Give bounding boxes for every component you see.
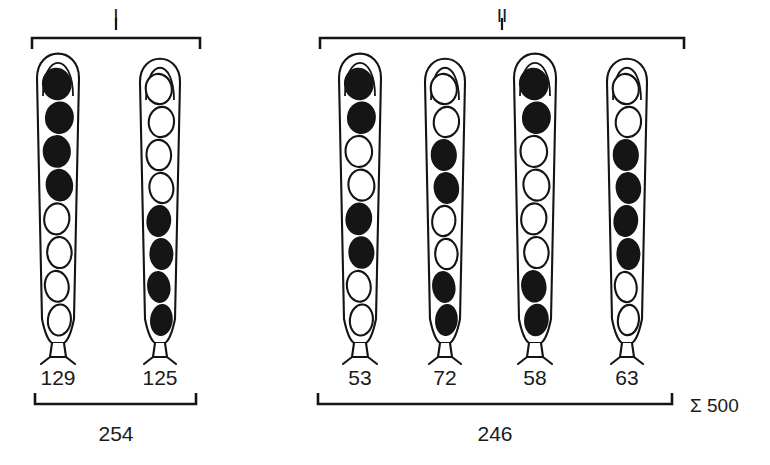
spore-dark xyxy=(43,135,71,167)
ascus-stalk xyxy=(352,343,368,357)
ascus-count-label: 63 xyxy=(615,366,638,389)
group-total-label: 254 xyxy=(98,422,133,445)
ascus-5 xyxy=(514,54,556,364)
spore-light xyxy=(345,135,373,167)
ascus-count-label: 129 xyxy=(40,366,75,389)
ascus-count-label: 125 xyxy=(142,366,177,389)
ascus-stalk xyxy=(153,343,167,357)
ascus-stalk xyxy=(620,343,634,357)
ascus-foot xyxy=(429,357,461,364)
ascus-stalk xyxy=(50,343,66,357)
spore-light xyxy=(523,236,549,268)
group-roman-label: I xyxy=(113,5,118,26)
ascus-2 xyxy=(140,59,180,364)
group-bottom-bracket xyxy=(318,393,672,404)
ascus-foot xyxy=(41,357,75,364)
group-total-label: 246 xyxy=(477,422,512,445)
spore-dark xyxy=(348,236,374,268)
group-roman-label: II xyxy=(497,5,508,26)
spore-light xyxy=(434,238,458,269)
grand-total-label: Σ 500 xyxy=(690,395,739,416)
ascus-1 xyxy=(37,54,79,364)
ascus-count-label: 53 xyxy=(348,366,371,389)
ascus-count-label: 58 xyxy=(523,366,546,389)
ascus-foot xyxy=(144,357,176,364)
ascus-foot xyxy=(518,357,552,364)
spore-light xyxy=(520,135,548,167)
spore-light xyxy=(146,139,172,171)
ascus-count-label: 72 xyxy=(433,366,456,389)
figure-canvas: 12912553725863I254II246Σ 500 xyxy=(0,0,770,465)
ascus-stalk xyxy=(527,343,543,357)
ascus-segregation-figure: 12912553725863I254II246Σ 500 xyxy=(0,0,770,465)
ascus-stalk xyxy=(438,343,452,357)
ascus-3 xyxy=(339,54,381,364)
spore-dark xyxy=(431,139,457,171)
ascus-foot xyxy=(343,357,377,364)
group-top-bracket xyxy=(32,38,200,49)
spore-dark xyxy=(616,238,640,269)
group-top-bracket xyxy=(320,38,684,49)
ascus-4 xyxy=(425,59,465,364)
spore-dark xyxy=(149,238,173,269)
ascus-6 xyxy=(607,59,647,364)
spore-dark xyxy=(613,139,639,171)
ascus-foot xyxy=(611,357,643,364)
group-bottom-bracket xyxy=(35,393,196,404)
spore-light xyxy=(46,236,72,268)
